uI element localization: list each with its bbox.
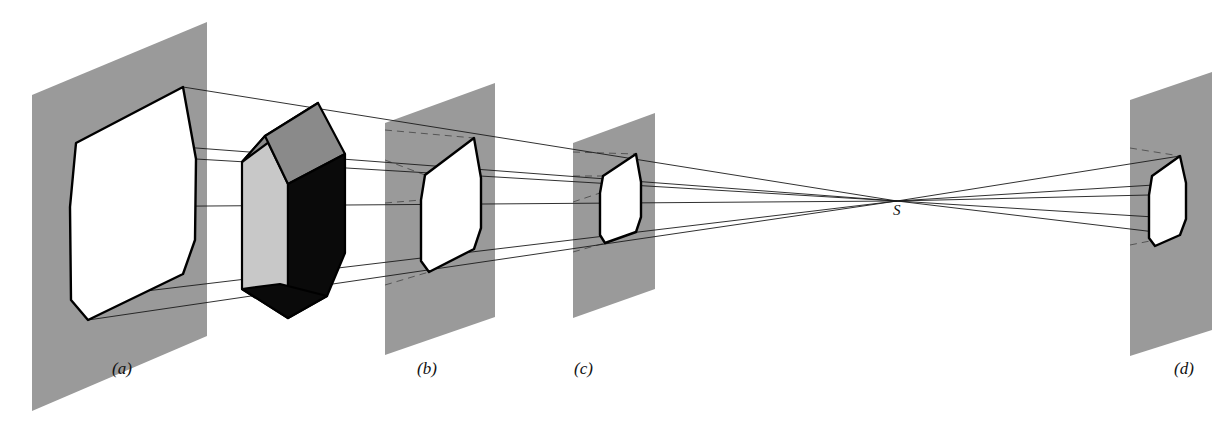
caption-d: (d)	[1174, 359, 1194, 378]
caption-b: (b)	[417, 359, 437, 378]
perspective-projection-figure: S (a) (b) (c) (d)	[0, 0, 1220, 425]
center-of-projection-label: S	[893, 202, 901, 218]
figure-container: S (a) (b) (c) (d)	[0, 0, 1220, 425]
caption-c: (c)	[574, 359, 593, 378]
caption-a: (a)	[112, 359, 132, 378]
